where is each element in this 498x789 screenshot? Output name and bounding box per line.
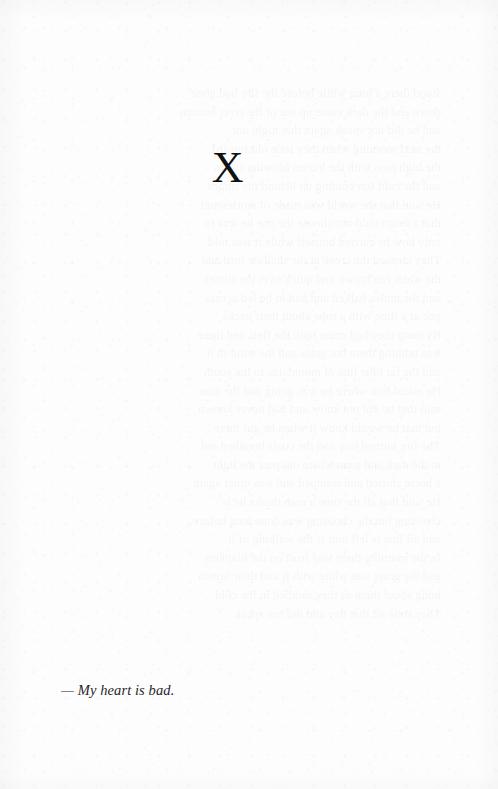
bleedthrough-line: a horse shifted and stamped and was quie… <box>59 474 441 493</box>
bleedthrough-line: In the morning there was frost on the bl… <box>59 549 441 568</box>
bleedthrough-line: choosing but the choosing was done long … <box>59 512 441 531</box>
bleedthrough-line: hung about them as they saddled in the c… <box>59 586 441 605</box>
bleedthrough-line: and he did not speak again that night no… <box>59 121 441 140</box>
bleedthrough-line: but that he would know it when he got th… <box>59 419 441 438</box>
bleedthrough-line: and the mules balked and had to be led a… <box>59 289 441 308</box>
bleedthrough-line: and all that is left him is the walking … <box>59 530 441 549</box>
bleedthrough-line: and the country grew poorer and more bar… <box>59 623 441 626</box>
book-page: stood there a long while before the fire… <box>0 0 498 789</box>
bleedthrough-line: He asked him where he was going and the … <box>59 382 441 401</box>
bleedthrough-line: stood there a long while before the fire… <box>59 84 441 103</box>
bleedthrough-line: He said that all the time a man thinks h… <box>59 493 441 512</box>
bleedthrough-line: They rode all that day and did not speak <box>59 605 441 624</box>
bleedthrough-line: only how he carried himself while it was… <box>59 233 441 252</box>
bleedthrough-line: one at a time with a rope about their ne… <box>59 307 441 326</box>
chapter-numeral: X <box>0 143 456 193</box>
bleedthrough-line: said that he did not know and had never … <box>59 400 441 419</box>
bleedthrough-line: in the dark and somewhere out past the l… <box>59 456 441 475</box>
bleedthrough-line: the water ran brown and quick over the s… <box>59 270 441 289</box>
bleedthrough-line: was nothing there but grass and the wind… <box>59 344 441 363</box>
bleedthrough-line: The fire burned low and the coals breath… <box>59 437 441 456</box>
epigraph-text: — My heart is bad. <box>61 680 174 700</box>
bleedthrough-line: and the grass was white with it and thei… <box>59 567 441 586</box>
paper-texture <box>0 0 498 789</box>
bleedthrough-line: By noon they had come onto the flats and… <box>59 326 441 345</box>
bleedthrough-line: He said that the world was made of stori… <box>59 196 441 215</box>
bleedthrough-line: and the far blue line of mountains to th… <box>59 363 441 382</box>
page-edge-shading <box>0 0 498 789</box>
bleedthrough-line: down and the dark came up out of the riv… <box>59 103 441 122</box>
bleedthrough-line: that a man could not choose the one he w… <box>59 214 441 233</box>
bleedthrough-line: They crossed the creek at the shallow fo… <box>59 251 441 270</box>
